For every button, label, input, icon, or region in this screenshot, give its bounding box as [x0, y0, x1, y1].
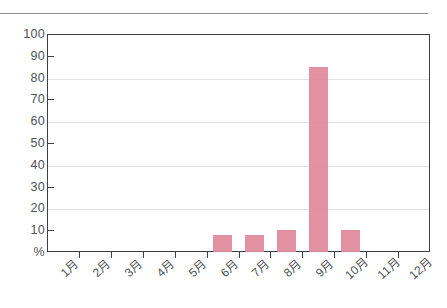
top-divider-rule: [0, 13, 428, 14]
x-axis-label-7: 7月: [247, 255, 273, 280]
y-axis-label-50: 50: [5, 137, 45, 150]
x-axis-label-9: 9月: [311, 255, 337, 280]
bar: [341, 230, 360, 252]
bar-slot: [334, 34, 366, 252]
bar-slot: [302, 34, 334, 252]
x-axis-label-5: 5月: [184, 255, 210, 280]
x-axis-label-10: 10月: [341, 252, 372, 282]
x-axis-label-4: 4月: [152, 255, 178, 280]
x-axis-label-11: 11月: [373, 253, 403, 282]
bar-slot: [143, 34, 175, 252]
x-axis-label-8: 8月: [279, 255, 305, 280]
y-axis-label-%: %: [5, 246, 45, 259]
y-axis-label-80: 80: [5, 72, 45, 85]
y-axis-label-40: 40: [5, 159, 45, 172]
bar: [245, 235, 264, 252]
bar-slot: [270, 34, 302, 252]
chart-page: 100908070605040302010% 1月2月3月4月5月6月7月8月9…: [0, 0, 447, 308]
y-axis-label-20: 20: [5, 202, 45, 215]
x-axis-labels-group: 1月2月3月4月5月6月7月8月9月10月11月12月: [47, 255, 430, 308]
bar: [277, 230, 296, 252]
y-axis-label-60: 60: [5, 115, 45, 128]
bar: [309, 67, 328, 252]
bar-slot: [398, 34, 430, 252]
x-axis-label-12: 12月: [404, 252, 435, 282]
y-axis-label-30: 30: [5, 181, 45, 194]
bar-slot: [239, 34, 271, 252]
bar-slot: [366, 34, 398, 252]
bar-slot: [175, 34, 207, 252]
y-axis-label-90: 90: [5, 50, 45, 63]
x-axis-label-2: 2月: [88, 255, 114, 280]
x-axis-label-6: 6月: [215, 255, 241, 280]
bar: [213, 235, 232, 252]
y-axis-label-10: 10: [5, 224, 45, 237]
x-axis-label-3: 3月: [120, 255, 146, 280]
x-axis-label-1: 1月: [56, 255, 82, 280]
bar-slot: [47, 34, 79, 252]
y-axis-label-100: 100: [5, 28, 45, 41]
bar-slot: [79, 34, 111, 252]
y-axis-label-70: 70: [5, 93, 45, 106]
bars-group: [47, 34, 430, 252]
bar-slot: [207, 34, 239, 252]
bar-slot: [111, 34, 143, 252]
